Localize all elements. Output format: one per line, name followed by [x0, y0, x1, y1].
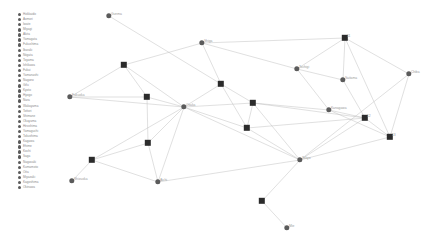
graph-edge: [262, 160, 300, 201]
graph-edge: [148, 143, 158, 182]
graph-node-n4[interactable]: [144, 94, 150, 100]
graph-edge: [124, 43, 202, 65]
graph-node-n9[interactable]: [145, 140, 151, 146]
graph-edge: [297, 69, 329, 110]
graph-node-n10[interactable]: [89, 157, 95, 163]
graph-edge: [124, 65, 147, 97]
graph-edge: [202, 43, 221, 84]
graph-edge: [343, 38, 345, 80]
graph-node-label: 12: [367, 114, 371, 118]
graph-node-label: 13: [392, 133, 396, 137]
graph-edge: [345, 38, 409, 74]
graph-edge: [158, 160, 300, 182]
graph-edge: [253, 103, 329, 110]
graph-node-label: Fukuoka: [72, 93, 85, 97]
graph-node-label: Shiga: [204, 39, 212, 43]
graph-node-label: Saitama: [345, 76, 357, 80]
graph-edge: [329, 110, 390, 137]
graph-node-label: 11: [347, 34, 350, 38]
graph-node-label: Aichi: [160, 178, 167, 182]
graph-edge: [300, 74, 409, 160]
graph-edge: [92, 107, 184, 160]
graph-edge: [221, 84, 253, 103]
graph-node-n5[interactable]: [250, 100, 256, 106]
graph-edge: [247, 118, 365, 128]
graph-edge: [300, 118, 365, 160]
graph-node-label: Shizuoka: [74, 177, 88, 181]
graph-node-label: Kanagawa: [331, 106, 347, 110]
graph-node-label: Tochigi: [299, 65, 309, 69]
graph-edge: [345, 38, 390, 137]
graph-node-n11[interactable]: [259, 198, 265, 204]
graph-edge: [253, 103, 300, 160]
graph-edge: [390, 74, 409, 137]
graph-edge: [148, 107, 184, 143]
graph-edge: [109, 16, 221, 84]
graph-edge: [247, 128, 300, 160]
graph-node-label: Tokyo: [302, 156, 311, 160]
graph-edge: [92, 160, 158, 182]
graph-edge: [70, 97, 184, 107]
graph-edge: [221, 84, 247, 128]
diagram-canvas: HokkaidoAomoriIwateMiyagiAkitaYamagataFu…: [0, 0, 446, 245]
graph-node-n3[interactable]: [218, 81, 224, 87]
graph-node-n1[interactable]: 11: [342, 35, 348, 41]
graph-node-label: Chiba: [411, 70, 420, 74]
graph-node-n2[interactable]: [121, 62, 127, 68]
graph-node-n8[interactable]: 13: [387, 134, 393, 140]
graph-node-label: Gunma: [111, 12, 122, 16]
graph-edge: [343, 80, 365, 118]
graph-edge: [262, 201, 287, 228]
graph-edge: [202, 43, 297, 69]
graph-edge: [158, 107, 184, 182]
graph-edge: [202, 38, 345, 43]
graph-node-label: Osaka: [186, 103, 196, 107]
graph-edge: [253, 103, 365, 118]
graph-edge: [184, 107, 247, 128]
graph-edge: [184, 107, 300, 160]
graph-edge: [300, 137, 390, 160]
graph-node-n6[interactable]: 12: [362, 115, 368, 121]
graph-node-n7[interactable]: [244, 125, 250, 131]
prefecture-network: GunmaShiga11TochigiSaitamaChibaFukuokaOs…: [0, 0, 446, 245]
edge-layer: [0, 0, 446, 245]
graph-edge: [297, 69, 343, 80]
graph-edge: [124, 65, 184, 107]
graph-edge: [92, 143, 148, 160]
graph-node-label: Mie: [289, 224, 294, 228]
